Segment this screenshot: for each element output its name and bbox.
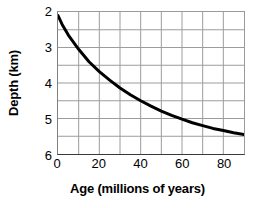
y-tick-label: 4	[26, 77, 52, 90]
y-tick-label: 6	[26, 149, 52, 162]
x-tick-label: 40	[133, 157, 147, 170]
y-tick-label: 5	[26, 113, 52, 126]
y-axis-title: Depth (km)	[2, 8, 24, 158]
x-tick-label: 0	[53, 157, 60, 170]
x-tick-label: 20	[92, 157, 106, 170]
y-axis-tick-labels: 23456	[26, 0, 52, 208]
plot-area	[57, 11, 245, 155]
chart-figure: Depth (km) 23456 020406080 Age (millions…	[0, 0, 261, 208]
x-tick-label: 60	[175, 157, 189, 170]
y-tick-label: 3	[26, 41, 52, 54]
depth-age-curve	[58, 12, 244, 154]
x-tick-label: 80	[217, 157, 231, 170]
y-tick-label: 2	[26, 5, 52, 18]
x-axis-tick-labels: 020406080	[57, 157, 245, 175]
x-axis-title: Age (millions of years)	[30, 181, 245, 196]
